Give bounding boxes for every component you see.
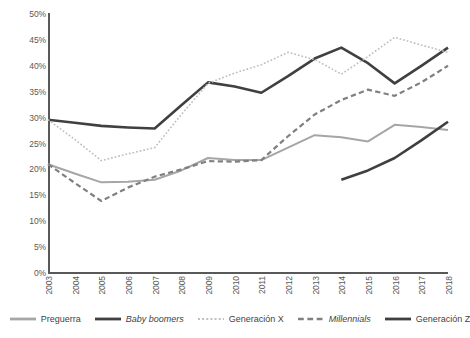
legend-item[interactable]: Generación Z (385, 314, 470, 324)
x-tick-label: 2003 (44, 276, 54, 295)
y-tick-label: 45% (2, 35, 46, 45)
x-tick-label: 2013 (311, 276, 321, 295)
y-tick-label: 50% (2, 9, 46, 19)
legend-item[interactable]: Baby boomers (95, 314, 184, 324)
series-lines (48, 14, 448, 273)
series-line (48, 125, 448, 183)
y-tick-label: 15% (2, 190, 46, 200)
line-swatch-dashed (298, 314, 324, 324)
x-tick-label: 2014 (337, 276, 347, 295)
y-tick-label: 0% (2, 268, 46, 278)
series-line (48, 37, 448, 160)
line-swatch-dotted (198, 314, 224, 324)
y-tick-label: 30% (2, 113, 46, 123)
x-tick-label: 2004 (71, 276, 81, 295)
line-swatch-solid (385, 314, 411, 324)
y-tick-label: 5% (2, 242, 46, 252)
legend-item[interactable]: Generación X (198, 314, 284, 324)
line-swatch-solid (10, 314, 36, 324)
series-line (341, 122, 448, 180)
x-tick-label: 2016 (391, 276, 401, 295)
x-tick-label: 2010 (231, 276, 241, 295)
legend-label: Generación X (229, 314, 284, 324)
legend-label: Preguerra (41, 314, 81, 324)
x-tick-label: 2007 (151, 276, 161, 295)
x-tick-label: 2012 (284, 276, 294, 295)
line-swatch-solid (95, 314, 121, 324)
y-tick-label: 40% (2, 61, 46, 71)
y-tick-label: 25% (2, 139, 46, 149)
x-tick-label: 2011 (257, 276, 267, 294)
y-tick-label: 35% (2, 87, 46, 97)
series-line (48, 48, 448, 129)
legend-item[interactable]: Preguerra (10, 314, 81, 324)
y-axis-tick-labels: 50%45%40%35%30%25%20%15%10%5%0% (0, 0, 46, 338)
x-tick-label: 2015 (364, 276, 374, 295)
x-tick-label: 2005 (97, 276, 107, 295)
series-line (48, 66, 448, 201)
legend-label: Millennials (329, 314, 371, 324)
plot-area (48, 14, 448, 273)
x-axis-tick-labels: 2003200420052006200720082009201020112012… (48, 274, 448, 314)
chart-legend: PreguerraBaby boomersGeneración XMillenn… (30, 309, 450, 329)
x-tick-label: 2017 (417, 276, 427, 295)
y-tick-label: 20% (2, 164, 46, 174)
legend-label: Baby boomers (126, 314, 184, 324)
x-tick-label: 2006 (124, 276, 134, 295)
x-tick-label: 2018 (444, 276, 454, 295)
legend-label: Generación Z (416, 314, 470, 324)
legend-item[interactable]: Millennials (298, 314, 371, 324)
x-tick-label: 2008 (177, 276, 187, 295)
x-tick-label: 2009 (204, 276, 214, 295)
y-tick-label: 10% (2, 216, 46, 226)
